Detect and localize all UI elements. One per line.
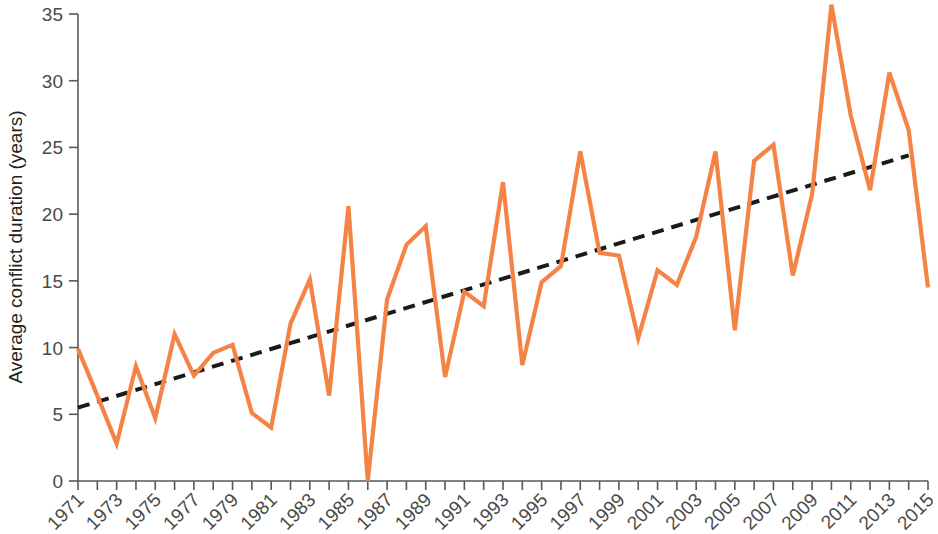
x-tick-label: 2001 — [623, 489, 668, 534]
y-axis-ticks — [69, 14, 78, 481]
conflict-duration-line — [78, 5, 928, 481]
x-tick-label: 1993 — [468, 489, 513, 534]
y-tick-label: 35 — [42, 4, 63, 25]
y-tick-label: 5 — [52, 404, 63, 425]
x-tick-label: 1987 — [352, 489, 397, 534]
y-tick-label: 25 — [42, 137, 63, 158]
y-tick-label: 30 — [42, 71, 63, 92]
x-tick-label: 2007 — [739, 489, 784, 534]
x-tick-label: 1989 — [391, 489, 436, 534]
x-tick-label: 2015 — [893, 489, 938, 534]
x-tick-label: 1985 — [314, 489, 359, 534]
y-tick-label: 10 — [42, 338, 63, 359]
x-tick-label: 2009 — [777, 489, 822, 534]
chart-container: 05101520253035 1971197319751977197919811… — [0, 0, 938, 534]
x-tick-label: 1997 — [545, 489, 590, 534]
x-tick-label: 1973 — [82, 489, 127, 534]
x-tick-label: 1971 — [43, 489, 88, 534]
x-tick-label: 1981 — [236, 489, 281, 534]
x-tick-label: 2011 — [817, 489, 861, 533]
plot-area: 05101520253035 1971197319751977197919811… — [5, 4, 938, 534]
x-tick-label: 1977 — [159, 489, 204, 534]
x-tick-label: 1983 — [275, 489, 320, 534]
x-tick-label: 1995 — [507, 489, 552, 534]
x-tick-label: 2003 — [661, 489, 706, 534]
line-chart: 05101520253035 1971197319751977197919811… — [0, 0, 938, 534]
x-tick-label: 1975 — [120, 489, 165, 534]
x-tick-label: 2013 — [854, 489, 899, 534]
x-tick-label: 1979 — [198, 489, 243, 534]
y-axis-tick-labels: 05101520253035 — [42, 4, 63, 492]
x-axis-ticks — [78, 481, 928, 490]
y-tick-label: 20 — [42, 204, 63, 225]
x-tick-label: 2005 — [700, 489, 745, 534]
y-tick-label: 0 — [52, 471, 63, 492]
x-tick-label: 1991 — [429, 489, 474, 534]
x-tick-label: 1999 — [584, 489, 629, 534]
y-axis-title: Average conflict duration (years) — [5, 110, 26, 383]
x-axis-tick-labels: 1971197319751977197919811983198519871989… — [43, 489, 938, 534]
trend-line — [78, 155, 909, 407]
y-tick-label: 15 — [42, 271, 63, 292]
